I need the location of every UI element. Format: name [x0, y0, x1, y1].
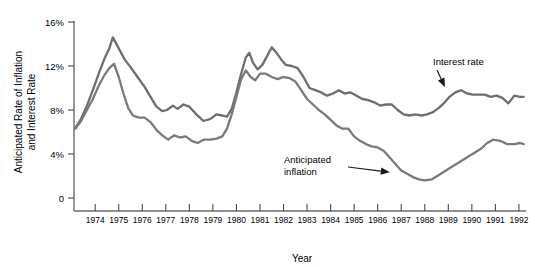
interest-rate-annotation-arrow [437, 70, 441, 79]
x-axis-tick-label: 1986 [368, 215, 387, 225]
x-axis-tick-label: 1976 [133, 215, 152, 225]
y-axis-ticks [68, 22, 74, 198]
y-axis-title-line1: Anticipated Rate of Inflation [13, 51, 24, 173]
x-axis-tick-label: 1974 [86, 215, 105, 225]
interest-rate-annotation-label: Interest rate [433, 56, 484, 67]
y-axis-tick-labels: 16%12%8%4%0 [45, 17, 65, 204]
y-axis-tick-label: 8% [50, 105, 64, 116]
anticipated-inflation-arrowhead-icon [380, 168, 389, 175]
x-axis-tick-label: 1975 [109, 215, 128, 225]
chart-canvas: 16%12%8%4%0 1974197519761977197819791980… [0, 0, 535, 267]
x-axis-title: Year [292, 253, 313, 264]
x-axis-tick-label: 1990 [462, 215, 481, 225]
x-axis-tick-label: 1977 [156, 215, 175, 225]
x-axis-tick-label: 1984 [321, 215, 340, 225]
x-axis-tick-label: 1985 [345, 215, 364, 225]
anticipated-inflation-annotation-label-line2: inflation [284, 166, 317, 177]
y-axis-title-line2: and Interest Rate [26, 73, 37, 150]
chart-annotations: Interest rate Anticipated inflation [284, 56, 484, 177]
y-axis-tick-label: 12% [45, 61, 65, 72]
x-axis-tick-label: 1980 [227, 215, 246, 225]
x-axis-tick-label: 1981 [251, 215, 270, 225]
x-axis-tick-label: 1983 [298, 215, 317, 225]
x-axis-tick-label: 1987 [392, 215, 411, 225]
y-axis-tick-label: 4% [50, 149, 64, 160]
x-axis-tick-label: 1992 [509, 215, 528, 225]
annotation-anticipated-inflation: Anticipated inflation [284, 154, 390, 177]
y-axis-tick-label: 16% [45, 17, 65, 28]
x-axis-tick-label: 1979 [203, 215, 222, 225]
anticipated-inflation-annotation-arrow [348, 167, 381, 171]
anticipated-inflation-annotation-label-line1: Anticipated [284, 154, 331, 165]
x-axis-tick-labels: 1974197519761977197819791980198119821983… [86, 215, 529, 225]
annotation-interest-rate: Interest rate [433, 56, 484, 87]
y-axis-tick-label: 0 [59, 193, 64, 204]
x-axis-ticks [95, 204, 519, 211]
x-axis-tick-label: 1982 [274, 215, 293, 225]
x-axis-tick-label: 1988 [415, 215, 434, 225]
interest-rate-arrowhead-icon [438, 78, 445, 88]
x-axis-tick-label: 1989 [439, 215, 458, 225]
series-line-interest-rate [75, 37, 523, 128]
inflation-interest-rate-chart: 16%12%8%4%0 1974197519761977197819791980… [0, 0, 535, 267]
x-axis-tick-label: 1991 [486, 215, 505, 225]
x-axis-tick-label: 1978 [180, 215, 199, 225]
